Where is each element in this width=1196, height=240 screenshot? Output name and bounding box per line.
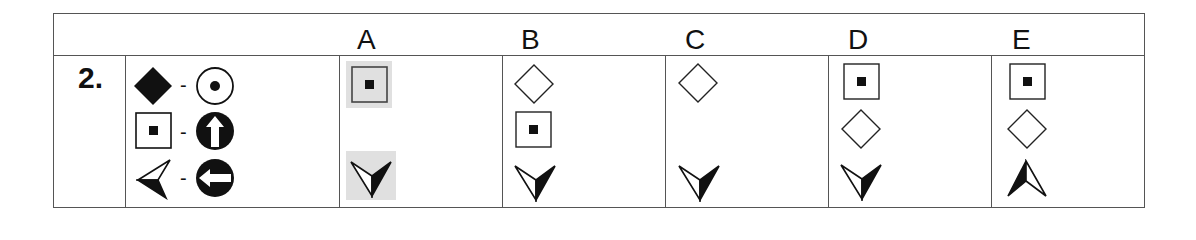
header-divider (53, 55, 1145, 56)
arrowhead-down-icon[interactable] (513, 160, 557, 202)
arrowhead-up-icon[interactable] (1006, 159, 1050, 201)
column-header-c: C (685, 26, 705, 54)
circle-with-dot-icon (195, 66, 235, 106)
column-divider (991, 55, 992, 208)
square-with-dot-icon[interactable] (1009, 63, 1047, 101)
column-divider (125, 55, 126, 208)
circle-arrow-up-icon (195, 111, 235, 151)
column-divider (665, 55, 666, 208)
arrowhead-down-icon[interactable] (839, 159, 883, 201)
outline-diamond-icon[interactable] (677, 62, 719, 104)
square-with-dot-icon[interactable] (515, 111, 553, 149)
column-header-b: B (521, 26, 540, 54)
legend-dash: - (180, 75, 187, 95)
column-header-d: D (848, 26, 868, 54)
legend-dash: - (180, 168, 187, 188)
column-divider (828, 55, 829, 208)
arrowhead-down-icon[interactable] (349, 156, 393, 198)
arrowhead-left-icon (136, 158, 174, 200)
outline-diamond-icon[interactable] (1006, 108, 1048, 150)
question-number: 2. (78, 63, 103, 93)
circle-arrow-left-icon (195, 158, 235, 198)
column-header-e: E (1012, 26, 1031, 54)
column-header-a: A (357, 26, 376, 54)
filled-diamond-icon (133, 66, 173, 106)
arrowhead-down-icon[interactable] (677, 160, 721, 202)
outline-diamond-icon[interactable] (840, 108, 882, 150)
column-divider (339, 55, 340, 208)
column-divider (502, 55, 503, 208)
square-with-dot-icon[interactable] (843, 63, 881, 101)
legend-dash: - (180, 122, 187, 142)
square-with-dot-icon (135, 112, 173, 150)
outline-diamond-icon[interactable] (513, 63, 555, 105)
square-with-dot-icon[interactable] (351, 66, 389, 104)
